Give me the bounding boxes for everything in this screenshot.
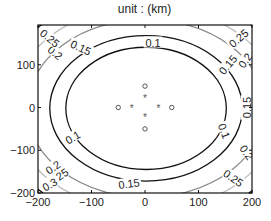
contour-label: 0.1 [215, 120, 233, 142]
contour-label: 0.1 [144, 37, 163, 49]
contour-chart: unit : (km) 0.10.150.20.250.250.20.150.1… [0, 0, 271, 221]
y-tick-label: −200 [10, 187, 35, 199]
star-marker: * [156, 103, 160, 114]
plot-area: 0.10.150.20.250.250.20.150.150.10.10.20.… [0, 0, 271, 221]
circle-marker [116, 105, 120, 109]
star-marker: * [143, 112, 147, 123]
contour-line-0-15 [50, 36, 243, 181]
contour-label: 0.2 [236, 141, 257, 163]
contour-label-text: 0.1 [145, 37, 160, 49]
star-marker: * [143, 93, 147, 104]
contour-label: 0.15 [116, 176, 142, 191]
star-marker: * [130, 103, 134, 114]
y-tick-label: 100 [17, 59, 35, 71]
circle-marker [143, 84, 147, 88]
axes-frame [38, 25, 252, 193]
x-tick-label: 0 [142, 196, 148, 208]
x-tick-label: 100 [189, 196, 207, 208]
contour-line-0-1 [66, 47, 227, 169]
x-tick-label: 200 [243, 196, 261, 208]
x-tick-label: −100 [79, 196, 104, 208]
y-tick-label: −100 [10, 144, 35, 156]
y-tick-label: 0 [29, 102, 35, 114]
contour-lines: 0.10.150.20.250.250.20.150.150.10.10.20.… [0, 0, 271, 221]
circle-marker [170, 105, 174, 109]
contour-label: 0.25 [225, 26, 251, 51]
circle-marker [143, 127, 147, 131]
contour-label-text: 0.15 [118, 176, 141, 191]
